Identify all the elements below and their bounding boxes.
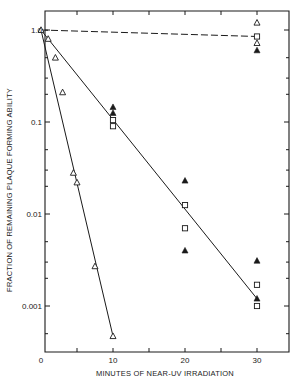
open-triangle-marker (52, 54, 58, 60)
x-axis-title: MINUTES OF NEAR-UV IRRADIATION (96, 369, 234, 378)
x-tick-label: 0 (39, 356, 44, 365)
open-triangle-marker (254, 40, 260, 46)
y-tick-label: 0.01 (26, 210, 42, 219)
open-triangle-marker (70, 170, 76, 176)
open-triangle-marker (74, 179, 80, 185)
open-square-marker (254, 282, 259, 287)
y-tick-label: 1.0 (31, 26, 43, 35)
x-tick-label: 10 (109, 356, 118, 365)
tick-labels: 01020301.00.10.010.001 (22, 26, 262, 365)
filled-triangle-marker (254, 258, 260, 264)
filled-triangle-marker (182, 178, 188, 184)
y-axis-title: FRACTION OF REMAINING PLAQUE FORMING ABI… (5, 88, 14, 292)
open-triangle-marker (60, 89, 66, 95)
y-tick-label: 0.1 (31, 118, 43, 127)
filled-triangle-marker (254, 47, 260, 53)
open-triangle-marker (92, 263, 98, 269)
open-square-marker (182, 226, 187, 231)
open-square-marker (110, 124, 115, 129)
open-triangle-marker (110, 333, 116, 339)
open-square-marker (254, 34, 259, 39)
semilog-chart: 01020301.00.10.010.001 MINUTES OF NEAR-U… (0, 0, 293, 383)
plot-frame (45, 11, 289, 352)
fit-lines (41, 30, 257, 336)
open-square-marker (254, 303, 259, 308)
axis-ticks (45, 11, 289, 352)
axes-box (45, 11, 289, 352)
filled-triangle-marker (110, 110, 116, 116)
x-tick-label: 30 (253, 356, 262, 365)
control-fit (41, 30, 257, 36)
open-triangle-marker (254, 20, 260, 26)
filled-triangle-marker (182, 247, 188, 253)
filled-triangle-marker (110, 104, 116, 110)
x-tick-label: 20 (181, 356, 190, 365)
y-tick-label: 0.001 (22, 302, 43, 311)
slow-decay-fit (41, 30, 257, 299)
open-square-marker (182, 202, 187, 207)
open-square-marker (110, 117, 115, 122)
